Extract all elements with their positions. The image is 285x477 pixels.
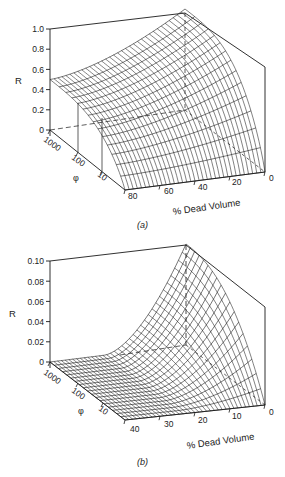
z-tick-b-5: 0.10 bbox=[10, 257, 44, 266]
z-tick-b-0: 0 bbox=[10, 358, 44, 367]
z-tick-b-3: 0.06 bbox=[10, 298, 44, 307]
x-tick-a-3: 20 bbox=[232, 178, 241, 187]
chart-panel-a: 0 0.2 0.4 0.6 0.8 1.0 R 1000 100 10 φ 80… bbox=[0, 0, 285, 240]
x-tick-b-3: 10 bbox=[232, 412, 241, 421]
caption-b: (b) bbox=[137, 457, 148, 467]
x-tick-a-1: 60 bbox=[164, 187, 173, 196]
z-tick-a-1: 0.2 bbox=[10, 106, 44, 115]
z-tick-b-4: 0.08 bbox=[10, 278, 44, 287]
z-tick-a-2: 0.4 bbox=[10, 86, 44, 95]
surface-plot-a bbox=[0, 0, 285, 240]
x-tick-b-2: 20 bbox=[198, 416, 207, 425]
x-tick-b-1: 30 bbox=[164, 420, 173, 429]
chart-panel-b: 0 0.02 0.04 0.06 0.08 0.10 R 1000 100 10… bbox=[0, 240, 285, 477]
x-tick-b-4: 0 bbox=[269, 408, 274, 417]
z-tick-a-3: 0.6 bbox=[10, 66, 44, 75]
x-tick-a-0: 80 bbox=[128, 192, 137, 201]
x-tick-b-0: 40 bbox=[130, 425, 139, 434]
caption-a: (a) bbox=[137, 220, 148, 230]
z-axis-title-a: R bbox=[15, 75, 22, 86]
z-tick-a-5: 1.0 bbox=[10, 25, 44, 34]
z-tick-b-1: 0.02 bbox=[10, 338, 44, 347]
z-axis-title-b: R bbox=[9, 308, 16, 319]
phi-axis-title-b: φ bbox=[78, 406, 84, 416]
x-tick-a-2: 40 bbox=[198, 183, 207, 192]
z-tick-a-0: 0 bbox=[10, 126, 44, 135]
z-tick-b-2: 0.04 bbox=[10, 318, 44, 327]
x-tick-a-4: 0 bbox=[269, 174, 274, 183]
z-tick-a-4: 0.8 bbox=[10, 45, 44, 54]
phi-axis-title-a: φ bbox=[73, 173, 79, 183]
